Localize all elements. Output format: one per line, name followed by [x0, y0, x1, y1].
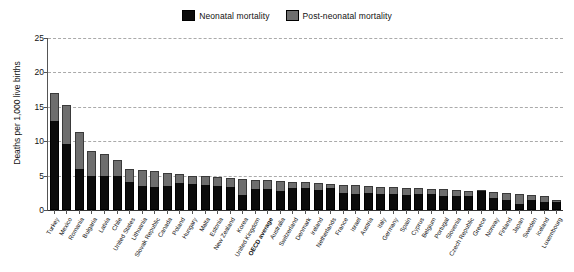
- bar-slot: [350, 38, 363, 210]
- stacked-bar[interactable]: [389, 187, 398, 210]
- stacked-bar[interactable]: [113, 160, 122, 210]
- stacked-bar[interactable]: [515, 194, 524, 210]
- bar-segment-post-neonatal: [364, 186, 373, 193]
- x-label-slot: Norway: [488, 215, 501, 272]
- bar-segment-neonatal: [427, 194, 436, 211]
- stacked-bar[interactable]: [402, 188, 411, 210]
- bar-segment-post-neonatal: [376, 187, 385, 194]
- legend-swatch-post-neonatal: [286, 10, 299, 21]
- x-tick-mark: [519, 210, 520, 214]
- bar-segment-post-neonatal: [62, 105, 71, 144]
- stacked-bar[interactable]: [540, 196, 549, 210]
- stacked-bar[interactable]: [364, 186, 373, 210]
- y-tick-label: 5: [20, 171, 44, 181]
- x-label-slot: Mexico: [61, 215, 74, 272]
- stacked-bar[interactable]: [452, 190, 461, 210]
- bar-segment-neonatal: [452, 196, 461, 210]
- stacked-bar[interactable]: [477, 190, 486, 210]
- bar-segment-post-neonatal: [339, 185, 348, 193]
- x-tick-slot: [249, 210, 262, 214]
- x-tick-slot: [149, 210, 162, 214]
- bar-slot: [551, 38, 564, 210]
- bar-slot: [412, 38, 425, 210]
- x-label-slot: Belgium: [425, 215, 438, 272]
- stacked-bar[interactable]: [502, 193, 511, 210]
- stacked-bar[interactable]: [188, 176, 197, 210]
- x-tick-mark: [217, 210, 218, 214]
- x-tick-mark: [343, 210, 344, 214]
- x-label-slot: Turkey: [48, 215, 61, 272]
- stacked-bar[interactable]: [301, 182, 310, 210]
- bar-segment-neonatal: [50, 121, 59, 210]
- bar-segment-post-neonatal: [502, 193, 511, 201]
- stacked-bar[interactable]: [326, 184, 335, 210]
- bar-segment-neonatal: [75, 169, 84, 210]
- stacked-bar[interactable]: [100, 154, 109, 210]
- x-tick-mark: [154, 210, 155, 214]
- bar-segment-neonatal: [314, 190, 323, 210]
- bar-slot: [98, 38, 111, 210]
- bar-segment-neonatal: [213, 186, 222, 210]
- stacked-bar[interactable]: [138, 170, 147, 210]
- x-tick-slot: [312, 210, 325, 214]
- stacked-bar[interactable]: [150, 171, 159, 210]
- bar-slot: [437, 38, 450, 210]
- bar-slot: [538, 38, 551, 210]
- bar-segment-post-neonatal: [75, 132, 84, 168]
- bar-segment-neonatal: [552, 202, 561, 210]
- stacked-bar[interactable]: [125, 169, 134, 210]
- stacked-bar[interactable]: [75, 132, 84, 210]
- x-label-slot: New Zealand: [224, 215, 237, 272]
- stacked-bar[interactable]: [489, 192, 498, 210]
- bar-segment-post-neonatal: [150, 171, 159, 187]
- x-tick-mark: [531, 210, 532, 214]
- stacked-bar[interactable]: [427, 189, 436, 210]
- stacked-bar[interactable]: [163, 173, 172, 210]
- stacked-bar[interactable]: [238, 179, 247, 210]
- stacked-bar[interactable]: [251, 180, 260, 210]
- x-label-slot: Japan: [513, 215, 526, 272]
- bar-segment-neonatal: [502, 200, 511, 210]
- bar-segment-neonatal: [364, 193, 373, 210]
- x-tick-slot: [425, 210, 438, 214]
- x-tick-slot: [186, 210, 199, 214]
- x-label-slot: Germany: [387, 215, 400, 272]
- x-label-slot: Finland: [500, 215, 513, 272]
- stacked-bar[interactable]: [276, 181, 285, 210]
- stacked-bar[interactable]: [351, 185, 360, 210]
- stacked-bar[interactable]: [464, 191, 473, 210]
- bar-slot: [174, 38, 187, 210]
- x-tick-slot: [375, 210, 388, 214]
- y-tick-label: 0: [20, 205, 44, 215]
- x-tick-slot: [362, 210, 375, 214]
- x-label-slot: Canada: [161, 215, 174, 272]
- bar-segment-neonatal: [439, 196, 448, 210]
- stacked-bar[interactable]: [87, 151, 96, 210]
- stacked-bar[interactable]: [201, 176, 210, 210]
- stacked-bar[interactable]: [414, 188, 423, 210]
- x-label-slot: Slovak Republic: [149, 215, 162, 272]
- stacked-bar[interactable]: [314, 183, 323, 210]
- stacked-bar[interactable]: [439, 189, 448, 210]
- x-tick-slot: [48, 210, 61, 214]
- legend-swatch-neonatal: [182, 10, 195, 21]
- stacked-bar[interactable]: [62, 105, 71, 210]
- stacked-bar[interactable]: [213, 177, 222, 210]
- stacked-bar[interactable]: [376, 187, 385, 210]
- stacked-bar[interactable]: [175, 174, 184, 210]
- bar-slot: [274, 38, 287, 210]
- x-tick-slot: [86, 210, 99, 214]
- stacked-bar[interactable]: [339, 185, 348, 210]
- x-tick-mark: [79, 210, 80, 214]
- stacked-bar[interactable]: [527, 195, 536, 210]
- x-axis-label: Latvia: [96, 216, 110, 234]
- stacked-bar[interactable]: [552, 200, 561, 210]
- x-label-slot: United States: [123, 215, 136, 272]
- bar-segment-post-neonatal: [138, 170, 147, 186]
- x-tick-slot: [123, 210, 136, 214]
- x-tick-slot: [136, 210, 149, 214]
- stacked-bar[interactable]: [263, 180, 272, 210]
- stacked-bar[interactable]: [226, 178, 235, 210]
- stacked-bar[interactable]: [50, 93, 59, 210]
- stacked-bar[interactable]: [288, 182, 297, 210]
